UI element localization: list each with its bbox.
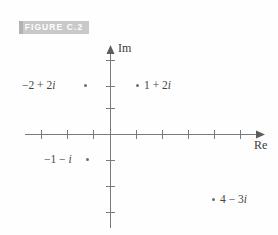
imaginary-unit-glyph: i xyxy=(52,79,55,91)
data-point-label: −2 + 2i xyxy=(22,80,55,92)
data-point-marker xyxy=(86,158,89,161)
data-point-label-real: 1 + 2 xyxy=(144,79,168,91)
data-point-marker xyxy=(84,84,87,87)
imaginary-unit-glyph: i xyxy=(168,79,171,91)
data-point-label-real: 4 − 3 xyxy=(220,193,244,205)
imaginary-unit-glyph: i xyxy=(68,153,71,165)
im-axis-label: Im xyxy=(118,42,131,54)
data-point-label: 1 + 2i xyxy=(144,80,171,92)
data-point-label: 4 − 3i xyxy=(220,194,247,206)
data-point-label-real: −2 + 2 xyxy=(22,79,52,91)
data-point-label: −1 − i xyxy=(44,154,72,166)
figure-container: FIGURE C.2 xyxy=(0,0,278,235)
im-axis-arrowhead xyxy=(107,45,115,54)
data-point-marker xyxy=(212,198,215,201)
re-axis-label: Re xyxy=(254,139,267,151)
data-point-marker xyxy=(136,84,139,87)
data-point-label-real: −1 − xyxy=(44,153,68,165)
imaginary-unit-glyph: i xyxy=(244,193,247,205)
